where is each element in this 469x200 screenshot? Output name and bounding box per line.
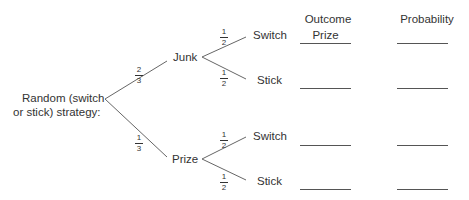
node-junk-switch: Switch	[253, 29, 287, 42]
probability-blank-1	[397, 43, 448, 44]
prob-junk-switch: 1 2	[220, 28, 228, 47]
prob-prize-stick: 1 2	[220, 173, 228, 192]
prob-prize: 1 3	[135, 134, 143, 153]
node-junk: Junk	[173, 51, 197, 64]
probability-blank-4	[397, 189, 448, 190]
probability-header: Probability	[395, 13, 459, 26]
prob-junk: 2 3	[135, 66, 143, 85]
outcome-blank-2	[300, 88, 351, 89]
outcome-blank-3	[300, 145, 351, 146]
outcome-blank-1	[300, 43, 351, 44]
outcome-header: Outcome	[298, 13, 358, 26]
prob-junk-stick: 1 2	[220, 69, 228, 88]
node-prize-stick: Stick	[257, 175, 282, 188]
outcome-junk-switch: Prize	[300, 29, 351, 42]
prob-prize-switch: 1 2	[220, 131, 228, 150]
node-junk-stick: Stick	[257, 74, 282, 87]
root-label-line1: Random (switch	[22, 92, 104, 105]
root-label-line2: or stick) strategy:	[13, 106, 101, 119]
probability-blank-3	[397, 145, 448, 146]
probability-blank-2	[397, 88, 448, 89]
outcome-blank-4	[300, 189, 351, 190]
node-prize-switch: Switch	[253, 130, 287, 143]
node-prize: Prize	[172, 153, 198, 166]
